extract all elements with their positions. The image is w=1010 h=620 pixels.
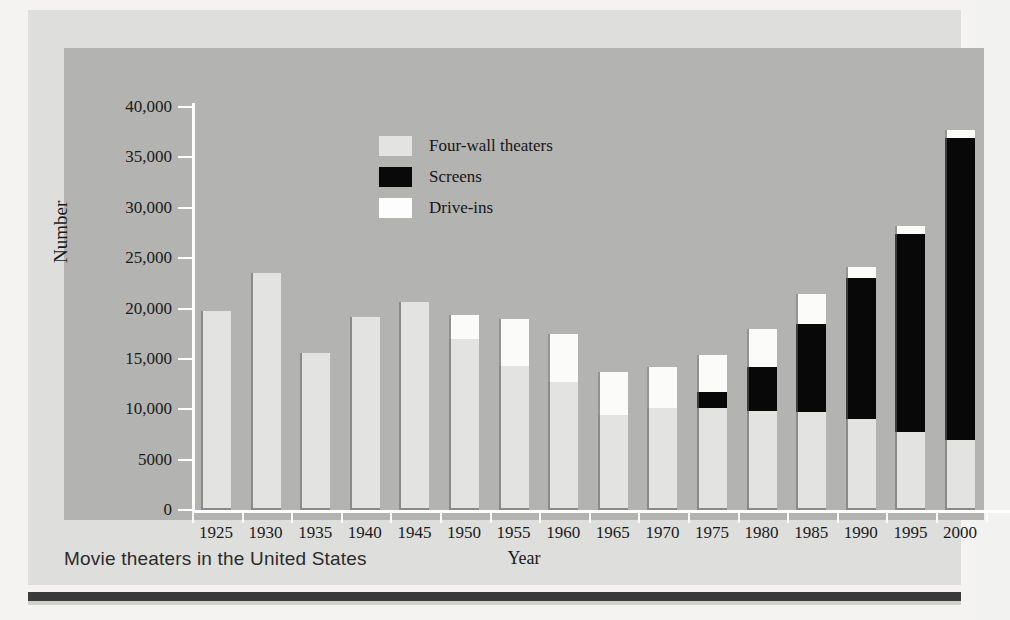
y-axis-tick xyxy=(178,156,192,158)
x-axis-tick-label-1975: 1975 xyxy=(686,524,738,542)
bar-1950 xyxy=(449,315,479,510)
x-axis-tick-label-1955: 1955 xyxy=(488,524,540,542)
y-axis-tick-label: 30,000 xyxy=(125,199,172,216)
legend-label-drive-ins: Drive-ins xyxy=(429,197,493,218)
segment-screens-2000 xyxy=(945,138,975,440)
segment-drive-ins-1990 xyxy=(846,267,876,278)
x-axis-tick xyxy=(936,510,938,523)
x-axis-tick xyxy=(390,510,392,523)
segment-drive-ins-1980 xyxy=(747,329,777,367)
x-axis-tick-label-1995: 1995 xyxy=(884,524,936,542)
bar-1945 xyxy=(399,302,429,510)
y-axis-tick xyxy=(178,509,192,511)
segment-four-wall-1945 xyxy=(399,302,429,510)
x-axis-tick-label-2000: 2000 xyxy=(934,524,986,542)
plot-panel: Number 0500010,00015,00020,00025,00030,0… xyxy=(64,48,984,520)
bottom-rule-shadow xyxy=(28,601,961,605)
segment-drive-ins-1965 xyxy=(598,372,628,415)
bar-1995 xyxy=(895,226,925,510)
y-axis-tick xyxy=(178,106,192,108)
bar-1940 xyxy=(350,317,380,510)
bar-1925 xyxy=(201,311,231,510)
segment-drive-ins-1950 xyxy=(449,315,479,339)
bar-1965 xyxy=(598,372,628,510)
segment-drive-ins-1960 xyxy=(548,334,578,382)
x-axis-tick xyxy=(837,510,839,523)
four-wall-swatch-icon xyxy=(379,136,412,156)
x-axis-tick xyxy=(242,510,244,523)
legend-label-screens: Screens xyxy=(429,166,482,187)
cropped-header-text xyxy=(28,0,975,10)
x-axis-tick xyxy=(986,510,988,523)
x-axis-tick-label-1965: 1965 xyxy=(587,524,639,542)
x-axis-tick-label-1930: 1930 xyxy=(240,524,292,542)
x-axis-tick xyxy=(688,510,690,523)
x-axis-tick xyxy=(589,510,591,523)
x-axis-tick-label-1940: 1940 xyxy=(339,524,391,542)
x-axis-tick xyxy=(291,510,293,523)
y-axis-tick xyxy=(178,308,192,310)
segment-four-wall-1965 xyxy=(598,415,628,510)
segment-screens-1985 xyxy=(796,324,826,413)
bar-2000 xyxy=(945,130,975,510)
x-axis-tick xyxy=(490,510,492,523)
segment-drive-ins-1995 xyxy=(895,226,925,234)
y-axis-tick xyxy=(178,358,192,360)
segment-four-wall-1935 xyxy=(300,353,330,510)
bar-1980 xyxy=(747,329,777,510)
x-axis-tick-label-1935: 1935 xyxy=(289,524,341,542)
y-axis-tick xyxy=(178,207,192,209)
y-axis-tick-label: 25,000 xyxy=(125,249,172,266)
x-axis-tick-label-1980: 1980 xyxy=(736,524,788,542)
segment-four-wall-1980 xyxy=(747,411,777,510)
x-axis-tick-label-1990: 1990 xyxy=(835,524,887,542)
y-axis-tick-label: 40,000 xyxy=(125,98,172,115)
segment-screens-1990 xyxy=(846,278,876,419)
segment-four-wall-1955 xyxy=(499,366,529,510)
bar-1975 xyxy=(697,355,727,510)
bar-1955 xyxy=(499,319,529,510)
x-axis-tick xyxy=(787,510,789,523)
screens-swatch-icon xyxy=(379,167,412,187)
y-axis-tick-labels: 0500010,00015,00020,00025,00030,00035,00… xyxy=(64,48,172,520)
y-axis-tick-label: 35,000 xyxy=(125,148,172,165)
x-axis-tick xyxy=(440,510,442,523)
y-axis-tick-label: 10,000 xyxy=(125,400,172,417)
segment-four-wall-1985 xyxy=(796,412,826,510)
drive-ins-swatch-icon xyxy=(379,198,412,218)
bar-1935 xyxy=(300,353,330,510)
segment-four-wall-1925 xyxy=(201,311,231,510)
x-axis-tick xyxy=(192,510,194,523)
y-axis-tick-label: 15,000 xyxy=(125,350,172,367)
bar-1930 xyxy=(251,273,281,510)
y-axis-tick xyxy=(178,257,192,259)
segment-screens-1975 xyxy=(697,392,727,408)
x-axis-tick-label-1950: 1950 xyxy=(438,524,490,542)
legend-label-four-wall: Four-wall theaters xyxy=(429,135,553,156)
segment-drive-ins-1985 xyxy=(796,294,826,323)
segment-four-wall-1930 xyxy=(251,273,281,510)
figure-card: Number 0500010,00015,00020,00025,00030,0… xyxy=(28,10,961,585)
x-axis-tick-label-1960: 1960 xyxy=(537,524,589,542)
figure-caption: Movie theaters in the United States xyxy=(64,548,367,570)
bottom-rule xyxy=(28,592,961,601)
segment-screens-1995 xyxy=(895,234,925,432)
segment-four-wall-1960 xyxy=(548,382,578,510)
x-axis-tick-label-1925: 1925 xyxy=(190,524,242,542)
x-axis-tick xyxy=(539,510,541,523)
x-axis-tick xyxy=(738,510,740,523)
y-axis-tick-label: 0 xyxy=(164,501,173,518)
x-axis-tick-label-1985: 1985 xyxy=(785,524,837,542)
bars-area xyxy=(192,107,1010,510)
x-axis-tick xyxy=(341,510,343,523)
y-axis-tick-label: 5000 xyxy=(138,451,172,468)
segment-drive-ins-1970 xyxy=(647,367,677,408)
bar-1985 xyxy=(796,294,826,510)
segment-drive-ins-1955 xyxy=(499,319,529,366)
segment-four-wall-1990 xyxy=(846,419,876,510)
segment-screens-1980 xyxy=(747,367,777,411)
bar-1960 xyxy=(548,334,578,510)
y-axis-tick xyxy=(178,459,192,461)
y-axis-tick-label: 20,000 xyxy=(125,300,172,317)
